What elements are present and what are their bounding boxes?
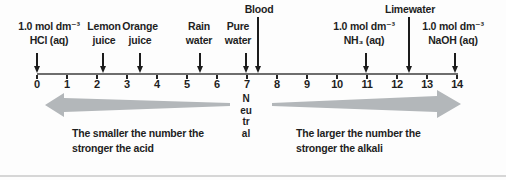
marker-label-line: Pure	[225, 19, 251, 33]
marker-label-line: Orange	[122, 19, 158, 33]
acid-annotation-line2: stronger the acid	[72, 141, 204, 156]
marker-label-line: Rain	[186, 19, 212, 33]
tick-label-12: 12	[388, 78, 406, 90]
marker-label-naoh: 1.0 mol dm⁻³ NaOH (aq)	[422, 19, 484, 47]
pointer-arrow-icon-hcl	[34, 53, 40, 73]
pointer-arrow-icon-pure-water	[243, 53, 249, 73]
marker-label-line: Blood	[245, 2, 274, 16]
neutral-label: Neutral	[240, 93, 252, 139]
tick-label-7: 7	[238, 78, 256, 90]
pointer-arrow-icon-naoh	[452, 53, 458, 73]
marker-label-line: 1.0 mol dm⁻³	[422, 19, 484, 33]
marker-label-ammonia: 1.0 mol dm⁻³ NH₃ (aq)	[333, 19, 395, 47]
alkali-annotation: The larger the number the stronger the a…	[296, 126, 421, 156]
acid-annotation: The smaller the number the stronger the …	[72, 126, 204, 156]
marker-label-line: juice	[122, 33, 158, 47]
pointer-arrow-icon-lemon-juice	[100, 53, 106, 73]
marker-label-line: water	[225, 33, 251, 47]
marker-label-line: water	[186, 33, 212, 47]
tick-label-4: 4	[148, 78, 166, 90]
marker-label-lemon-juice: Lemon juice	[87, 19, 120, 47]
marker-label-line: HCl (aq)	[18, 33, 80, 47]
marker-label-pure-water: Pure water	[225, 19, 251, 47]
tick-label-9: 9	[298, 78, 316, 90]
acid-annotation-line1: The smaller the number the	[72, 126, 204, 141]
tick-label-0: 0	[28, 78, 46, 90]
tick-label-10: 10	[328, 78, 346, 90]
pointer-arrow-icon-rain-water	[197, 53, 203, 73]
pointer-arrow-icon-ammonia	[363, 53, 369, 73]
marker-label-blood: Blood	[245, 2, 274, 16]
marker-label-line: 1.0 mol dm⁻³	[18, 19, 80, 33]
tick-label-6: 6	[208, 78, 226, 90]
acid-strength-arrow-icon	[45, 93, 230, 117]
pointer-arrow-icon-blood	[255, 17, 261, 73]
tick-label-13: 13	[418, 78, 436, 90]
tick-label-14: 14	[448, 78, 466, 90]
marker-label-line: Limewater	[385, 2, 435, 16]
tick-label-2: 2	[88, 78, 106, 90]
tick-label-11: 11	[358, 78, 376, 90]
marker-label-line: 1.0 mol dm⁻³	[333, 19, 395, 33]
tick-label-8: 8	[268, 78, 286, 90]
pointer-arrow-icon-orange-juice	[137, 53, 143, 73]
alkali-annotation-line2: stronger the alkali	[296, 141, 421, 156]
tick-label-3: 3	[118, 78, 136, 90]
marker-label-line: juice	[87, 33, 120, 47]
tick-label-5: 5	[178, 78, 196, 90]
marker-label-rain-water: Rain water	[186, 19, 212, 47]
marker-label-line: Lemon	[87, 19, 120, 33]
alkali-annotation-line1: The larger the number the	[296, 126, 421, 141]
tick-label-1: 1	[58, 78, 76, 90]
pointer-arrow-icon-limewater	[406, 17, 412, 73]
page-edge-line	[0, 175, 506, 177]
ph-scale-diagram: 0 1 2 3 4 5 6 7 8 9 10 11 12 13 14 1.0 m…	[0, 0, 506, 180]
marker-label-limewater: Limewater	[385, 2, 435, 16]
marker-label-orange-juice: Orange juice	[122, 19, 158, 47]
marker-label-hcl: 1.0 mol dm⁻³ HCl (aq)	[18, 19, 80, 47]
alkali-strength-arrow-icon	[272, 90, 461, 118]
marker-label-line: NH₃ (aq)	[333, 33, 395, 47]
marker-label-line: NaOH (aq)	[422, 33, 484, 47]
